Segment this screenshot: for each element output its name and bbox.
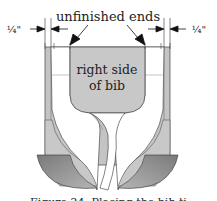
center-label-line1: right side	[77, 62, 138, 77]
measure-arrows	[30, 26, 186, 32]
pointer-arrows	[70, 25, 145, 45]
center-label-line2: of bib	[89, 78, 125, 93]
figure-caption: Figure 24. Placing the bib ti	[30, 196, 187, 201]
right-measure-label: ¼"	[192, 24, 206, 35]
bib-placement-diagram: unfinished ends ¼" ¼" right side of bib …	[0, 0, 217, 201]
left-measure-label: ¼"	[7, 24, 21, 35]
top-label: unfinished ends	[56, 9, 160, 24]
